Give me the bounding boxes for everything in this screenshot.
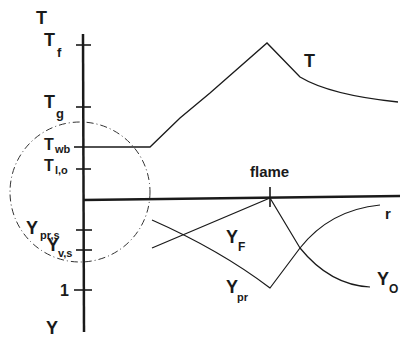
label-product-fraction: Y pr	[226, 277, 249, 303]
tick-label-one: 1	[60, 282, 69, 299]
tick-label-twb: T wb	[44, 136, 71, 155]
svg-text:Y: Y	[377, 269, 389, 289]
svg-text:f: f	[57, 45, 62, 60]
tick-label-tlo: T l,o	[44, 157, 68, 176]
axis-label-temperature: T	[36, 8, 47, 28]
svg-text:Y: Y	[226, 227, 238, 247]
svg-text:F: F	[238, 240, 245, 254]
label-flame: flame	[250, 163, 289, 180]
droplet-boundary-circle	[10, 122, 150, 262]
svg-text:T: T	[44, 92, 55, 112]
svg-text:g: g	[56, 106, 64, 121]
label-fuel-fraction: Y F	[226, 227, 245, 254]
fuel-fraction-curve	[152, 198, 370, 287]
tick-label-yvs: Y v,s	[47, 235, 72, 259]
svg-text:v,s: v,s	[58, 247, 72, 259]
tick-label-tf: T f	[44, 30, 62, 60]
product-fraction-curve	[152, 205, 380, 288]
label-oxidizer-fraction: Y O	[377, 269, 398, 296]
temperature-curve	[84, 43, 398, 147]
droplet-flame-profile-diagram: T Y T f T g T wb T l,o Y pr,s Y v,s 1 T …	[0, 0, 407, 341]
axis-label-mass-fraction: Y	[46, 318, 58, 338]
label-temperature-curve: T	[304, 51, 315, 71]
svg-text:l,o: l,o	[55, 164, 68, 176]
svg-text:O: O	[389, 282, 398, 296]
svg-text:T: T	[44, 30, 55, 50]
vertical-axis	[83, 34, 84, 332]
radial-axis	[83, 196, 400, 200]
svg-text:T: T	[44, 157, 54, 174]
tick-label-tg: T g	[44, 92, 64, 121]
label-radius: r	[385, 205, 391, 222]
svg-text:wb: wb	[54, 143, 71, 155]
svg-text:pr: pr	[237, 291, 249, 303]
svg-text:Y: Y	[26, 218, 38, 238]
svg-text:T: T	[44, 136, 54, 153]
